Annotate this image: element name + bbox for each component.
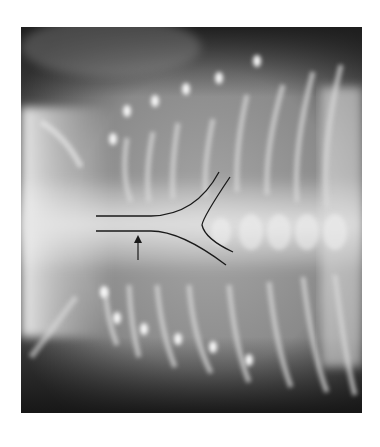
xray-graphic (21, 27, 362, 413)
xray-image (21, 27, 362, 413)
